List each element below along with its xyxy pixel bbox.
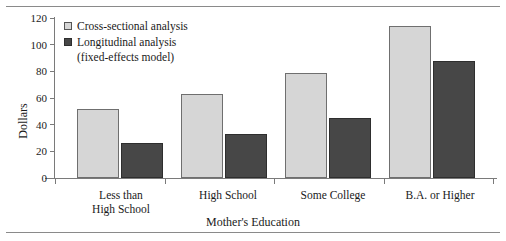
figure-container: Dollars 0 20 40 60 80 100 120 Less than … bbox=[0, 0, 506, 241]
legend: Cross-sectional analysis Longitudinal an… bbox=[64, 19, 188, 66]
x-tick-3 bbox=[384, 178, 385, 184]
x-category-label-1: High School bbox=[199, 188, 257, 202]
y-tick-mark-20 bbox=[50, 151, 55, 152]
bar-high-school-series-2 bbox=[225, 134, 267, 178]
y-tick-label-60: 60 bbox=[36, 92, 47, 104]
y-tick-120: 120 bbox=[31, 12, 56, 24]
x-category-label-2: Some College bbox=[301, 188, 366, 202]
y-tick-0: 0 bbox=[42, 172, 56, 184]
x-category-label-0-line-0: Less than bbox=[92, 188, 150, 202]
y-tick-label-80: 80 bbox=[36, 65, 47, 77]
bar-group-high-school bbox=[177, 18, 273, 178]
legend-label-longitudinal: Longitudinal analysis bbox=[77, 35, 176, 51]
bar-less-than-high-school-series-2 bbox=[121, 143, 163, 178]
bar-less-than-high-school-series-1 bbox=[77, 109, 119, 178]
bar-high-school-series-1 bbox=[181, 94, 223, 178]
y-tick-label-120: 120 bbox=[31, 12, 48, 24]
legend-label-longitudinal-sub: (fixed-effects model) bbox=[77, 50, 188, 66]
x-category-label-2-line-0: Some College bbox=[301, 188, 366, 202]
x-tick-4 bbox=[493, 178, 494, 184]
bar-group-ba-or-higher bbox=[385, 18, 481, 178]
y-tick-100: 100 bbox=[31, 39, 56, 51]
legend-label-cross-sectional: Cross-sectional analysis bbox=[77, 19, 188, 35]
x-axis-line bbox=[45, 178, 497, 179]
x-tick-1 bbox=[165, 178, 166, 184]
y-tick-label-40: 40 bbox=[36, 119, 47, 131]
legend-swatch-dark-icon bbox=[64, 38, 72, 46]
y-tick-mark-100 bbox=[50, 44, 55, 45]
bar-group-some-college bbox=[281, 18, 377, 178]
bar-ba-or-higher-series-2 bbox=[433, 61, 475, 178]
y-tick-40: 40 bbox=[36, 119, 55, 131]
x-axis-title: Mother's Education bbox=[0, 215, 506, 230]
x-tick-0 bbox=[55, 178, 56, 184]
y-tick-label-100: 100 bbox=[31, 39, 48, 51]
legend-swatch-light-icon bbox=[64, 22, 72, 30]
top-rule bbox=[6, 6, 500, 7]
bottom-rule bbox=[6, 232, 500, 233]
x-category-label-1-line-0: High School bbox=[199, 188, 257, 202]
y-tick-60: 60 bbox=[36, 92, 55, 104]
y-tick-80: 80 bbox=[36, 65, 55, 77]
y-tick-label-20: 20 bbox=[36, 145, 47, 157]
legend-item-longitudinal: Longitudinal analysis bbox=[64, 35, 188, 51]
x-category-label-3: B.A. or Higher bbox=[406, 188, 475, 202]
bar-some-college-series-2 bbox=[329, 118, 371, 178]
y-tick-label-0: 0 bbox=[42, 172, 48, 184]
x-category-label-3-line-0: B.A. or Higher bbox=[406, 188, 475, 202]
bar-some-college-series-1 bbox=[285, 73, 327, 178]
y-tick-20: 20 bbox=[36, 145, 55, 157]
x-category-label-0: Less than High School bbox=[92, 188, 150, 217]
y-tick-mark-80 bbox=[50, 71, 55, 72]
y-tick-mark-60 bbox=[50, 98, 55, 99]
y-axis-title: Dollars bbox=[16, 103, 31, 138]
x-tick-2 bbox=[274, 178, 275, 184]
y-tick-mark-120 bbox=[50, 18, 55, 19]
bar-ba-or-higher-series-1 bbox=[389, 26, 431, 178]
legend-item-cross-sectional: Cross-sectional analysis bbox=[64, 19, 188, 35]
y-tick-mark-40 bbox=[50, 124, 55, 125]
